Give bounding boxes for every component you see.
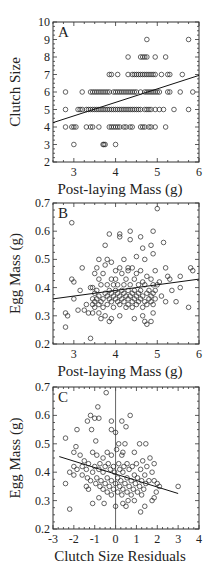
data-point (63, 436, 68, 441)
y-tick-label: 0.3 (35, 309, 50, 323)
regression-line (53, 75, 199, 122)
y-tick-label: 2 (44, 155, 50, 169)
data-point (93, 439, 98, 444)
data-point (127, 484, 132, 489)
data-point (99, 478, 104, 483)
data-point (153, 268, 158, 273)
data-point (109, 478, 114, 483)
data-point (104, 390, 109, 395)
data-point (101, 271, 106, 276)
data-point (105, 476, 110, 481)
data-point (149, 277, 154, 282)
data-point (82, 308, 87, 313)
data-point (128, 413, 133, 418)
y-tick-label: 0.5 (35, 437, 50, 451)
data-point (144, 442, 149, 447)
data-point (69, 220, 74, 225)
x-axis-title: Clutch Size Residuals (54, 548, 186, 564)
data-point (163, 266, 168, 271)
data-point (120, 271, 125, 276)
data-point (140, 314, 145, 319)
data-point (67, 470, 72, 475)
y-tick-label: 0.6 (35, 408, 50, 422)
data-point (132, 277, 137, 282)
data-point (128, 237, 133, 242)
data-point (134, 271, 139, 276)
data-point (132, 450, 137, 455)
panel-b: 34560.20.30.40.50.60.7Post-laying Mass (… (7, 196, 202, 380)
data-point (180, 72, 185, 77)
data-point (150, 470, 155, 475)
data-point (103, 263, 108, 268)
data-point (118, 478, 123, 483)
data-point (117, 314, 122, 319)
data-point (124, 277, 129, 282)
data-point (121, 487, 126, 492)
data-point (121, 470, 126, 475)
data-point (190, 90, 195, 95)
y-tick-label: 0.2 (35, 337, 50, 351)
data-point (103, 243, 108, 248)
x-tick-label: 6 (196, 165, 202, 179)
x-axis-title: Post-laying Mass (g) (58, 363, 183, 380)
data-point (151, 311, 156, 316)
data-point (80, 464, 85, 469)
data-point (155, 206, 160, 211)
x-tick-label: 0 (113, 532, 119, 546)
panel-c: -3-2-1012340.20.30.40.50.60.7Clutch Size… (7, 380, 202, 564)
data-point (152, 461, 157, 466)
y-tick-label: 0.4 (35, 281, 50, 295)
data-point (105, 257, 110, 262)
data-point (159, 72, 164, 77)
data-point (78, 453, 83, 458)
data-point (105, 302, 110, 307)
y-tick-label: 8 (44, 50, 50, 64)
data-point (138, 268, 143, 273)
data-point (89, 427, 94, 432)
data-point (101, 456, 106, 461)
y-tick-label: 10 (38, 15, 50, 29)
data-point (141, 487, 146, 492)
data-point (88, 336, 93, 341)
data-point (96, 405, 101, 410)
data-point (109, 419, 114, 424)
data-point (148, 456, 153, 461)
data-point (161, 240, 166, 245)
data-point (138, 510, 143, 515)
data-point (153, 55, 158, 60)
x-tick-label: 4 (196, 532, 202, 546)
data-point (129, 493, 134, 498)
data-point (85, 419, 90, 424)
data-point (72, 450, 77, 455)
data-point (114, 447, 119, 452)
data-point (74, 444, 79, 449)
x-tick-label: -1 (90, 532, 100, 546)
data-point (97, 125, 102, 130)
data-point (176, 484, 181, 489)
data-point (80, 90, 85, 95)
y-tick-label: 9 (44, 33, 50, 47)
data-point (108, 467, 113, 472)
data-point (109, 260, 114, 265)
data-point (140, 459, 145, 464)
data-point (116, 442, 121, 447)
data-point (126, 55, 131, 60)
data-point (101, 305, 106, 310)
data-point (109, 493, 114, 498)
data-point (142, 504, 147, 509)
data-point (137, 442, 142, 447)
data-point (120, 419, 125, 424)
data-point (170, 288, 175, 293)
data-point (115, 72, 120, 77)
y-tick-label: 0.3 (35, 494, 50, 508)
y-tick-label: 3 (44, 138, 50, 152)
data-point (120, 453, 125, 458)
figure: 34562345678910Post-laying Mass (g)Clutch… (0, 0, 213, 574)
data-point (97, 311, 102, 316)
data-point (72, 473, 77, 478)
data-point (82, 459, 87, 464)
data-point (186, 37, 191, 42)
y-tick-label: 0.5 (35, 252, 50, 266)
plot-frame (53, 203, 199, 344)
data-point (95, 476, 100, 481)
